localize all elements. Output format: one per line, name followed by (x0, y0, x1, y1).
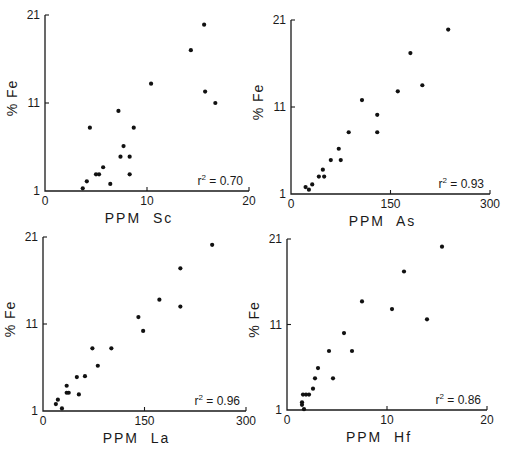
y-tick-label: 1 (275, 403, 282, 417)
data-point (375, 113, 379, 117)
data-point (307, 188, 311, 192)
x-tick-label: 150 (134, 414, 154, 428)
data-point (97, 172, 101, 176)
data-point (337, 147, 341, 151)
data-point (128, 172, 132, 176)
data-point (101, 165, 105, 169)
data-point (108, 182, 112, 186)
y-tick-label: 11 (26, 317, 39, 331)
panel-la: 111210150300PPM La% Fer2 = 0.96 (2, 230, 256, 446)
data-point (360, 98, 364, 102)
data-point (317, 175, 321, 179)
data-point (327, 349, 331, 353)
data-point (60, 406, 64, 410)
data-point (321, 168, 325, 172)
r-squared-annotation: r2 = 0.96 (195, 393, 241, 408)
data-point (390, 307, 394, 311)
data-point (178, 266, 182, 270)
data-point (213, 101, 217, 105)
y-tick-label: 1 (33, 184, 40, 198)
y-tick-label: 21 (273, 13, 287, 27)
data-point (342, 331, 346, 335)
data-point (210, 243, 214, 247)
y-tick-label: 21 (25, 230, 39, 244)
data-point (375, 130, 379, 134)
data-point (303, 185, 307, 189)
x-tick-label: 20 (480, 413, 494, 427)
data-point (141, 329, 145, 333)
data-point (121, 144, 125, 148)
y-tick-label: 1 (279, 187, 286, 201)
data-point (446, 27, 450, 31)
data-point (402, 269, 406, 273)
x-axis-label: PPM As (349, 213, 417, 229)
y-tick-label: 1 (31, 404, 38, 418)
data-point (347, 130, 351, 134)
data-point (300, 403, 304, 407)
data-point (136, 315, 140, 319)
y-tick-label: 11 (270, 318, 283, 332)
r-squared-annotation: r2 = 0.70 (198, 173, 244, 188)
data-point (350, 349, 354, 353)
x-tick-label: 150 (380, 197, 400, 211)
data-point (329, 158, 333, 162)
data-point (88, 126, 92, 130)
data-point (118, 155, 122, 159)
x-tick-label: 300 (236, 414, 256, 428)
data-point (203, 89, 207, 93)
data-point (307, 393, 311, 397)
x-axis-label: PPM Sc (105, 210, 173, 226)
y-tick-label: 21 (269, 232, 283, 246)
data-point (90, 346, 94, 350)
data-point (54, 402, 58, 406)
data-point (67, 391, 71, 395)
y-axis-label: % Fe (4, 80, 20, 117)
x-tick-label: 0 (42, 194, 49, 208)
y-tick-label: 11 (28, 96, 41, 110)
data-point (128, 155, 132, 159)
data-point (75, 375, 79, 379)
data-point (96, 364, 100, 368)
data-point (109, 346, 113, 350)
data-point (440, 245, 444, 249)
x-tick-label: 0 (288, 197, 295, 211)
data-point (83, 374, 87, 378)
data-point (116, 109, 120, 113)
data-point (339, 158, 343, 162)
y-tick-label: 21 (27, 8, 41, 22)
data-point (316, 366, 320, 370)
scatter-plot-grid: 1112101020PPM Sc% Fer2 = 0.70 1112101503… (0, 0, 509, 450)
data-point (322, 175, 326, 179)
r-squared-annotation: r2 = 0.86 (436, 392, 482, 407)
y-axis-label: % Fe (250, 84, 266, 121)
data-point (81, 186, 85, 190)
x-tick-label: 10 (380, 413, 394, 427)
x-axis-label: PPM La (103, 430, 171, 446)
data-point (425, 317, 429, 321)
data-point (331, 376, 335, 380)
data-point (311, 387, 315, 391)
axes (45, 15, 249, 191)
data-point (65, 384, 69, 388)
x-tick-label: 0 (284, 413, 291, 427)
data-point (157, 298, 161, 302)
data-point (302, 407, 306, 411)
x-tick-label: 20 (242, 194, 256, 208)
panel-sc: 1112101020PPM Sc% Fer2 = 0.70 (4, 8, 256, 226)
r-squared-annotation: r2 = 0.93 (439, 176, 485, 191)
y-axis-label: % Fe (246, 301, 262, 338)
y-axis-label: % Fe (2, 301, 18, 338)
axes (43, 237, 246, 411)
panel-as: 111210150300PPM As% Fer2 = 0.93 (250, 13, 500, 229)
data-point (360, 299, 364, 303)
axes (291, 20, 490, 194)
data-point (396, 89, 400, 93)
data-point (313, 376, 317, 380)
x-tick-label: 10 (140, 194, 154, 208)
data-point (202, 23, 206, 27)
figure: 1112101020PPM Sc% Fer2 = 0.70 1112101503… (0, 0, 509, 450)
data-point (85, 179, 89, 183)
panel-hf: 1112101020PPM Hf% Fer2 = 0.86 (246, 232, 494, 445)
data-point (310, 182, 314, 186)
y-tick-label: 11 (274, 100, 287, 114)
